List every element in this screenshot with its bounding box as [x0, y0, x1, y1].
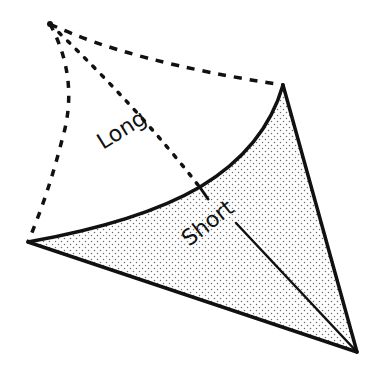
geometric-diagram: Long Short	[0, 0, 375, 386]
label-long: Long	[92, 105, 150, 154]
dashed-edge-apex-left	[28, 24, 69, 242]
dotted-long-line	[50, 24, 198, 185]
dashed-edge-apex-right	[50, 24, 283, 85]
apex-point	[47, 21, 53, 27]
